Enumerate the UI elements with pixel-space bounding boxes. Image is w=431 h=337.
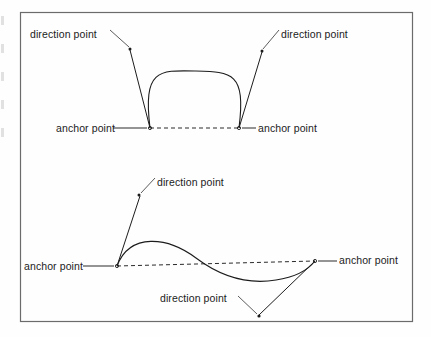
- lower-lower-direction-handle: [259, 261, 315, 315]
- label-upper-right-anchor-point: anchor point: [258, 122, 317, 134]
- label-lower-lower-direction-point: direction point: [160, 292, 227, 304]
- upper-left-direction-point-dot: [129, 48, 132, 51]
- label-upper-left-anchor-point: anchor point: [56, 122, 115, 134]
- label-lower-left-anchor-point: anchor point: [24, 260, 83, 272]
- lower-anchor-baseline: [117, 261, 315, 266]
- upper-bezier-curve: [148, 71, 240, 128]
- label-upper-right-direction-point: direction point: [281, 28, 348, 40]
- lower-lower-direction-point-dot: [257, 314, 260, 317]
- label-lower-upper-direction-point: direction point: [157, 176, 224, 188]
- upper-left-direction-leader: [110, 30, 129, 47]
- upper-right-direction-point-dot: [261, 50, 264, 53]
- figure-frame: [21, 13, 413, 322]
- lower-upper-direction-handle: [117, 196, 140, 266]
- upper-left-direction-handle: [130, 50, 150, 128]
- upper-diagram: [110, 30, 279, 130]
- label-lower-right-anchor-point: anchor point: [339, 254, 398, 266]
- lower-upper-direction-leader: [141, 178, 155, 193]
- diagram-canvas: [0, 0, 431, 337]
- lower-upper-direction-point-dot: [138, 194, 141, 197]
- bezier-diagram-figure: direction point direction point anchor p…: [0, 0, 431, 337]
- lower-lower-direction-leader: [238, 296, 257, 314]
- upper-right-direction-handle: [239, 52, 262, 128]
- upper-right-direction-leader: [263, 30, 279, 49]
- label-upper-left-direction-point: direction point: [30, 28, 97, 40]
- page-edge-artifacts: [1, 16, 4, 137]
